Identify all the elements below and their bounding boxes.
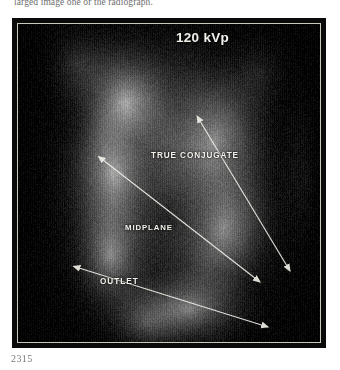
radiograph-image: 120 kVp TRUE CONJUGATE MIDPLANE OUTLET — [18, 24, 320, 342]
figure-number: 2315 — [11, 353, 33, 364]
top-caption-text: larged image one or the radiograph. — [14, 0, 324, 8]
annotation-label-true-conjugate: TRUE CONJUGATE — [151, 151, 239, 160]
radiograph-figure: 120 kVp TRUE CONJUGATE MIDPLANE OUTLET — [12, 18, 326, 348]
xray-image-canvas — [18, 24, 320, 342]
annotation-label-outlet: OUTLET — [100, 277, 139, 286]
annotation-label-midplane: MIDPLANE — [125, 223, 173, 232]
technique-label-kvp: 120 kVp — [176, 30, 229, 45]
